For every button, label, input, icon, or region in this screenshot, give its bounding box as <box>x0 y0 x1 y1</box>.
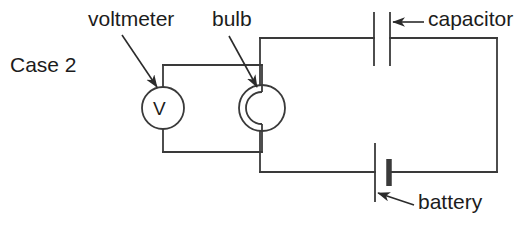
bulb-symbol <box>239 85 285 131</box>
bulb-pointer-arrow <box>229 36 257 87</box>
voltmeter-symbol-letter: V <box>153 99 166 118</box>
circuit-diagram-figure: Case 2 voltmeter bulb capacitor battery … <box>0 0 519 248</box>
voltmeter-pointer-arrow <box>122 35 157 87</box>
battery-label: battery <box>418 191 482 212</box>
case-label: Case 2 <box>10 54 77 75</box>
battery-pointer-arrow <box>378 193 414 205</box>
battery-symbol <box>375 143 389 202</box>
bulb-label: bulb <box>212 8 252 29</box>
capacitor-label: capacitor <box>428 8 513 29</box>
main-circuit-loop <box>260 38 497 172</box>
voltmeter-label: voltmeter <box>88 8 174 29</box>
capacitor-symbol <box>374 12 390 66</box>
